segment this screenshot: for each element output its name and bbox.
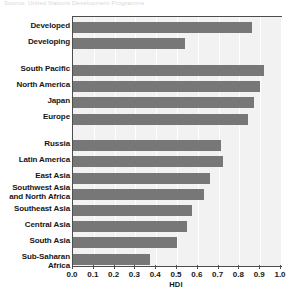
bar xyxy=(73,81,260,92)
category-label-line: Developing xyxy=(0,38,70,47)
gridline xyxy=(281,17,282,266)
category-label-line: North America xyxy=(0,81,70,90)
category-label-line: Sub-Saharan Africa xyxy=(0,253,70,270)
x-tick-mark xyxy=(93,265,94,269)
category-label: Developed xyxy=(0,22,70,31)
x-tick-mark xyxy=(72,265,73,269)
category-label: Sub-Saharan Africa xyxy=(0,253,70,270)
category-label-line: Developed xyxy=(0,22,70,31)
x-tick-mark xyxy=(259,265,260,269)
cropped-caption-fragment: Source: United Nations Development Progr… xyxy=(4,0,184,7)
category-label: Southeast Asia xyxy=(0,205,70,214)
category-label-line: East Asia xyxy=(0,172,70,181)
bar xyxy=(73,22,252,33)
x-tick-label: 1.0 xyxy=(268,270,287,279)
category-label: Southwest Asiaand North Africa xyxy=(0,184,70,201)
category-label: South Asia xyxy=(0,237,70,246)
category-label-line: South Pacific xyxy=(0,65,70,74)
x-tick-mark xyxy=(176,265,177,269)
x-tick-mark xyxy=(280,265,281,269)
category-label-line: Japan xyxy=(0,97,70,106)
category-label-line: Central Asia xyxy=(0,221,70,230)
bar-series xyxy=(73,17,281,266)
x-tick-mark xyxy=(114,265,115,269)
x-tick-mark xyxy=(197,265,198,269)
bar xyxy=(73,173,210,184)
bar xyxy=(73,221,187,232)
bar xyxy=(73,205,192,216)
category-label: Europe xyxy=(0,113,70,122)
hdi-bar-chart-figure: Source: United Nations Development Progr… xyxy=(0,0,287,293)
category-label-line: and North Africa xyxy=(0,193,70,202)
category-axis-labels: DevelopedDevelopingSouth PacificNorth Am… xyxy=(0,16,70,265)
category-label: Japan xyxy=(0,97,70,106)
category-label-line: South Asia xyxy=(0,237,70,246)
category-label-line: Latin America xyxy=(0,156,70,165)
x-tick-mark xyxy=(155,265,156,269)
bar xyxy=(73,254,150,265)
category-label-line: Russia xyxy=(0,140,70,149)
bar xyxy=(73,38,185,49)
bar xyxy=(73,156,223,167)
bar xyxy=(73,140,221,151)
category-label: Developing xyxy=(0,38,70,47)
x-axis: HDI 0.00.10.20.30.40.50.60.70.80.91.0 xyxy=(72,265,282,293)
category-label: East Asia xyxy=(0,172,70,181)
category-label: Latin America xyxy=(0,156,70,165)
bar xyxy=(73,237,177,248)
bar xyxy=(73,97,254,108)
x-tick-mark xyxy=(134,265,135,269)
plot-area xyxy=(72,16,282,267)
bar xyxy=(73,114,248,125)
category-label: Russia xyxy=(0,140,70,149)
category-label-line: Southeast Asia xyxy=(0,205,70,214)
category-label: North America xyxy=(0,81,70,90)
bar xyxy=(73,65,264,76)
x-tick-mark xyxy=(238,265,239,269)
x-tick-mark xyxy=(218,265,219,269)
category-label: Central Asia xyxy=(0,221,70,230)
x-axis-title: HDI xyxy=(72,280,280,289)
category-label-line: Europe xyxy=(0,113,70,122)
category-label: South Pacific xyxy=(0,65,70,74)
bar xyxy=(73,189,204,200)
